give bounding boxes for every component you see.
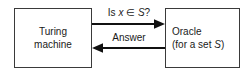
- turing-machine-label-line2: machine: [34, 38, 72, 51]
- answer-edge-label: Answer: [92, 32, 166, 44]
- query-arrow: [92, 19, 165, 29]
- turing-machine-node: Turing machine: [14, 8, 92, 68]
- query-prefix: Is: [108, 7, 119, 18]
- turing-machine-label-line1: Turing: [39, 25, 67, 38]
- answer-arrow: [92, 43, 165, 53]
- query-set-symbol: S: [138, 7, 145, 18]
- query-membership-symbol: ∈: [123, 7, 138, 18]
- oracle-label-line1: Oracle: [172, 25, 201, 38]
- oracle-set-symbol: S: [214, 39, 221, 50]
- oracle-label-line2: (for a set S): [172, 38, 224, 51]
- query-suffix: ?: [145, 7, 151, 18]
- oracle-set-suffix: ): [221, 39, 224, 50]
- query-edge-label: Is x ∈ S?: [92, 7, 166, 19]
- oracle-turing-machine-diagram: Turing machine Oracle (for a set S) Is x…: [0, 0, 251, 75]
- oracle-node: Oracle (for a set S): [165, 8, 240, 68]
- oracle-set-prefix: (for a set: [172, 39, 214, 50]
